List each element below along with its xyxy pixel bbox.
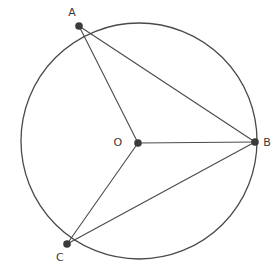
geometry-figure: AOBC <box>0 0 279 276</box>
segments-group <box>67 26 255 244</box>
label-c: C <box>56 251 64 264</box>
point-c <box>63 240 71 248</box>
point-a <box>75 22 83 30</box>
chord-c-b <box>67 142 255 244</box>
label-o: O <box>114 136 123 149</box>
point-o <box>134 139 142 147</box>
points-group <box>63 22 259 248</box>
radius-o-a <box>79 26 138 143</box>
radius-o-c <box>67 143 138 244</box>
chord-a-b <box>79 26 255 142</box>
label-a: A <box>68 6 76 19</box>
radius-o-b <box>138 142 255 143</box>
geometry-canvas: AOBC <box>0 0 279 276</box>
label-b: B <box>263 136 271 149</box>
point-b <box>251 138 259 146</box>
